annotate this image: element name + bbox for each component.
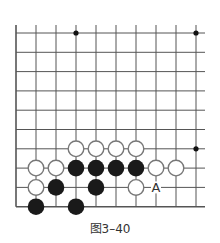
white-stone: [28, 180, 44, 196]
black-stone: [88, 179, 105, 196]
star-point-icon: [73, 30, 78, 35]
white-stone: [28, 160, 44, 176]
go-board: A: [0, 0, 220, 215]
white-stone: [148, 160, 164, 176]
white-stone: [128, 180, 144, 196]
star-point-icon: [193, 146, 198, 151]
black-stone: [88, 160, 105, 177]
black-stone: [48, 179, 65, 196]
white-stone: [68, 141, 84, 157]
black-stone: [128, 160, 145, 177]
black-stone: [68, 198, 85, 215]
black-stone: [28, 198, 45, 215]
figure-caption: 图3–40: [0, 219, 220, 236]
star-point-icon: [193, 30, 198, 35]
white-stone: [168, 160, 184, 176]
white-stone: [128, 141, 144, 157]
black-stone: [108, 160, 125, 177]
point-label-a: A: [152, 180, 161, 195]
black-stone: [68, 160, 85, 177]
white-stone: [88, 141, 104, 157]
white-stone: [48, 160, 64, 176]
white-stone: [108, 141, 124, 157]
